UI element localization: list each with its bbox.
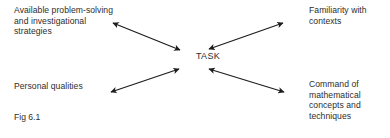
- node-label-top-right: Familiarity with contexts: [309, 5, 389, 26]
- top-right-arrow: [209, 23, 283, 49]
- node-label-top-left: Available problem-solving and investigat…: [14, 5, 164, 37]
- center-node-label: TASK: [186, 51, 230, 62]
- figure-caption: Fig 6.1: [14, 112, 40, 123]
- node-label-bottom-left: Personal qualities: [14, 81, 134, 92]
- bottom-right-arrow: [209, 69, 284, 92]
- node-label-bottom-right: Command of mathematical concepts and tec…: [309, 79, 389, 121]
- figure-diagram: Available problem-solving and investigat…: [0, 0, 390, 138]
